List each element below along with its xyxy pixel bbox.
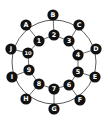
node-label: 2 bbox=[52, 31, 56, 39]
node-label: A bbox=[24, 21, 29, 29]
node-G: G bbox=[48, 103, 59, 114]
node-label: 4 bbox=[76, 51, 81, 59]
node-1: 1 bbox=[33, 35, 44, 46]
node-label: C bbox=[77, 21, 82, 29]
node-label: E bbox=[93, 73, 97, 81]
node-I: I bbox=[6, 71, 17, 82]
node-label: 3 bbox=[67, 37, 71, 45]
node-6: 6 bbox=[63, 79, 74, 90]
node-label: H bbox=[23, 95, 28, 103]
node-label: 7 bbox=[52, 85, 56, 93]
node-7: 7 bbox=[48, 83, 59, 94]
node-A: A bbox=[20, 19, 31, 30]
node-5: 5 bbox=[72, 66, 83, 77]
node-8: 8 bbox=[33, 78, 44, 89]
graph-diagram: BCDEFGHIJA23456789101 bbox=[0, 0, 108, 123]
node-label: I bbox=[11, 73, 13, 81]
node-label: D bbox=[93, 45, 98, 53]
node-label: 10 bbox=[24, 50, 32, 56]
node-label: 5 bbox=[76, 68, 80, 76]
node-label: 9 bbox=[27, 66, 32, 74]
node-9: 9 bbox=[23, 64, 34, 75]
node-4: 4 bbox=[72, 49, 83, 60]
node-label: 1 bbox=[37, 37, 41, 45]
node-3: 3 bbox=[63, 35, 74, 46]
node-label: F bbox=[78, 96, 82, 104]
node-label: G bbox=[51, 105, 56, 113]
node-10: 10 bbox=[22, 47, 33, 58]
node-2: 2 bbox=[48, 29, 59, 40]
node-label: 8 bbox=[37, 80, 42, 88]
node-label: 6 bbox=[67, 81, 72, 89]
node-E: E bbox=[89, 71, 100, 82]
node-F: F bbox=[74, 94, 85, 105]
node-label: B bbox=[51, 11, 56, 19]
node-C: C bbox=[73, 19, 84, 30]
node-H: H bbox=[20, 93, 31, 104]
node-B: B bbox=[47, 9, 58, 20]
node-D: D bbox=[90, 43, 101, 54]
node-J: J bbox=[5, 43, 16, 54]
node-label: J bbox=[9, 45, 12, 53]
